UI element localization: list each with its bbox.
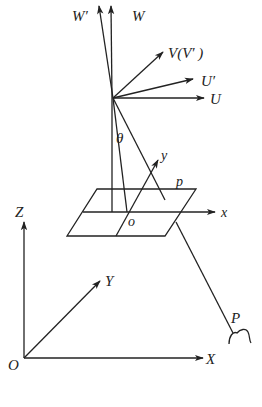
label-u-prime: U′ [201, 73, 216, 89]
label-plane-y: y [159, 148, 168, 163]
world-y-axis [24, 281, 100, 358]
label-u: U [210, 91, 222, 107]
u-prime-axis [113, 79, 193, 98]
optical-axis-line [113, 98, 127, 212]
camera-geometry-diagram: W′ W V(V′ ) U′ U θ p o x y Z Y X O P [0, 0, 262, 407]
object-p: P [229, 310, 251, 344]
label-plane-origin: o [128, 214, 135, 229]
label-plane-p: p [175, 174, 183, 189]
label-world-y: Y [105, 273, 115, 289]
label-world-z: Z [15, 204, 24, 220]
projection-ray-upper [113, 98, 165, 200]
label-v: V(V′ ) [168, 45, 203, 62]
label-plane-x: x [220, 205, 228, 220]
label-theta: θ [116, 130, 124, 146]
label-world-x: X [205, 351, 216, 367]
label-w-prime: W′ [72, 8, 88, 24]
label-world-origin: O [8, 357, 19, 373]
projection-ray-lower [176, 222, 233, 333]
label-object-p: P [230, 310, 240, 326]
image-plane: p o x y [67, 148, 228, 236]
world-frame: Z Y X O [8, 204, 216, 373]
label-w: W [132, 8, 146, 24]
v-axis [113, 52, 163, 98]
